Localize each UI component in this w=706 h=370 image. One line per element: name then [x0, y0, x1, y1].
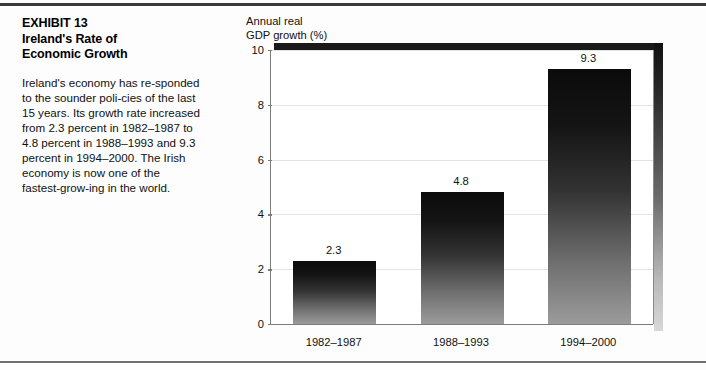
bar-chart: Annual real GDP growth (%) 0246810 2.319…: [230, 0, 706, 370]
y-axis-tick-label: 6: [238, 154, 264, 166]
bar-value-label: 9.3: [581, 52, 597, 64]
plot-shadow-top: [274, 43, 663, 50]
y-axis-tick-label: 2: [238, 263, 264, 275]
exhibit-title: EXHIBIT 13 Ireland's Rate of Economic Gr…: [22, 16, 200, 63]
y-axis-tick-label: 0: [238, 318, 264, 330]
caption-column: EXHIBIT 13 Ireland's Rate of Economic Gr…: [22, 16, 200, 195]
plot-shadow-right: [654, 43, 663, 331]
bar-value-label: 2.3: [326, 244, 342, 256]
y-axis-tick-mark: [268, 105, 272, 106]
y-axis-tick-label: 8: [238, 99, 264, 111]
bar: [548, 69, 631, 324]
exhibit-description: Ireland's economy has re-sponded to the …: [22, 75, 200, 196]
bar: [421, 192, 504, 324]
bar-value-label: 4.8: [453, 175, 469, 187]
y-axis-tick-mark: [268, 160, 272, 161]
y-axis-tick-mark: [268, 50, 272, 51]
y-axis-tick-label: 10: [238, 44, 264, 56]
y-axis-title: Annual real GDP growth (%): [246, 14, 327, 42]
y-axis-tick-mark: [268, 214, 272, 215]
plot-area: [270, 50, 653, 325]
x-axis-category-label: 1994–2000: [560, 336, 616, 348]
x-axis-category-label: 1988–1993: [433, 336, 489, 348]
y-axis-tick-label: 4: [238, 208, 264, 220]
gridline: [271, 50, 653, 51]
y-axis-tick-mark: [268, 324, 272, 325]
exhibit-page: EXHIBIT 13 Ireland's Rate of Economic Gr…: [0, 0, 706, 370]
bar: [293, 261, 376, 324]
y-axis-tick-mark: [268, 269, 272, 270]
x-axis-category-label: 1982–1987: [306, 336, 362, 348]
